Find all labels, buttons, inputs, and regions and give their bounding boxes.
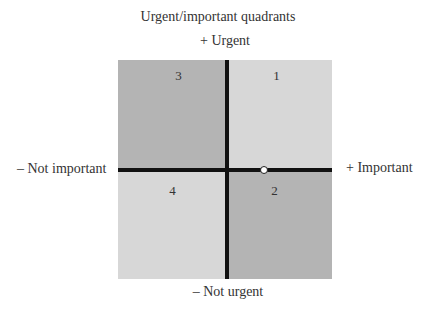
axis-label-urgent: + Urgent [0,33,436,49]
axis-label-not-important: – Not important [17,161,106,177]
axis-label-important: + Important [346,160,413,176]
quadrant-4: 4 [118,170,227,279]
quadrant-1: 1 [227,60,332,170]
quadrant-3: 3 [118,60,227,170]
axis-label-not-urgent: – Not urgent [0,284,436,300]
quadrant-2: 2 [227,170,332,279]
quadrant-4-label: 4 [118,183,227,199]
quadrant-2-label: 2 [222,183,327,199]
diagram-title: Urgent/important quadrants [0,9,436,25]
quadrant-3-label: 3 [124,68,233,84]
quadrant-1-label: 1 [224,68,329,84]
horizontal-axis-importance [118,168,332,172]
marker-point [260,166,268,174]
